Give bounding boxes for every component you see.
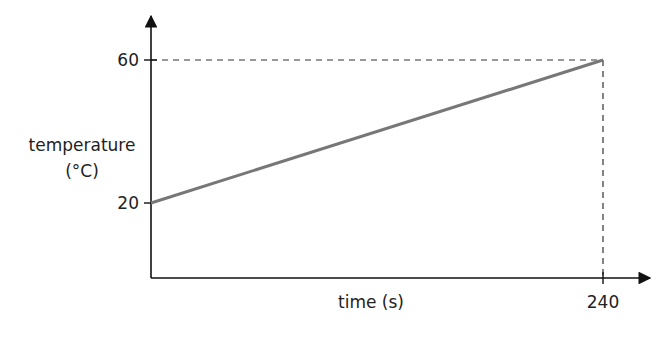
y-axis-label-line1: temperature (29, 135, 136, 155)
x-tick-label-240: 240 (587, 292, 619, 312)
y-tick-label-20: 20 (117, 193, 139, 213)
chart: 60 20 240 temperature (°C) time (s) (0, 0, 662, 339)
y-tick-label-60: 60 (117, 50, 139, 70)
temperature-line (151, 60, 603, 203)
y-axis-label-line2: (°C) (65, 161, 99, 181)
x-axis-label: time (s) (338, 292, 404, 312)
